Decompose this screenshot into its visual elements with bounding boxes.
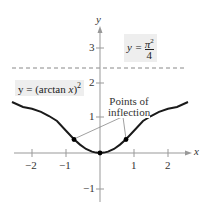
inflection-annotation: Points of inflection (108, 96, 150, 118)
y-axis-arrow-icon (98, 26, 103, 33)
minimum-point (98, 151, 103, 156)
y-axis-label: y (96, 13, 101, 25)
inflection-point-right (124, 137, 129, 142)
y-tick-label: 1 (89, 110, 95, 122)
x-tick-label: 1 (131, 159, 137, 171)
x-axis-arrow-icon (185, 151, 192, 156)
x-tick-label: −2 (25, 159, 37, 171)
leader-line-right (123, 117, 126, 139)
x-tick-label: −1 (59, 159, 71, 171)
leader-line-left (74, 117, 122, 139)
asymptote-label: y = π2 4 (124, 34, 157, 62)
y-tick-label: 2 (89, 76, 95, 88)
curve-label: y = (arctan x)2 (15, 80, 84, 96)
x-axis-label: x (194, 145, 199, 157)
x-tick-label: 2 (165, 159, 171, 171)
chart-canvas (0, 0, 208, 216)
inflection-point-left (72, 137, 77, 142)
y-tick-label: 3 (89, 41, 95, 53)
y-tick-label: −1 (83, 182, 95, 194)
